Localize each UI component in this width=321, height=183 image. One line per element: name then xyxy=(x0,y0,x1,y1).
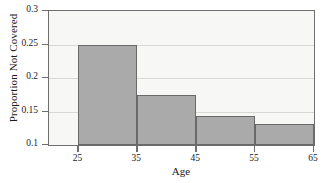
y-axis-tick-label: 0.25 xyxy=(0,39,38,49)
x-axis-tick xyxy=(195,145,196,152)
bar xyxy=(78,45,137,146)
y-axis-tick-label: 0.15 xyxy=(0,106,38,116)
y-axis-tick-label: 0.2 xyxy=(0,72,38,82)
x-axis-tick-label: 55 xyxy=(239,154,269,164)
x-axis-tick-label: 65 xyxy=(298,154,321,164)
y-axis-tick-label: 0.1 xyxy=(0,139,38,149)
x-axis-tick xyxy=(77,145,78,152)
y-axis-title: Proportion Not Covered xyxy=(7,0,19,138)
y-axis-tick xyxy=(42,77,49,78)
bar xyxy=(196,116,255,145)
x-axis-tick xyxy=(136,145,137,152)
y-axis-tick xyxy=(42,10,49,11)
x-axis-title: Age xyxy=(48,165,314,177)
x-axis-tick-label: 35 xyxy=(121,154,151,164)
y-axis-tick xyxy=(42,144,49,145)
plot-area xyxy=(48,10,315,146)
plot-inner xyxy=(49,11,314,145)
bar xyxy=(137,95,196,145)
bar xyxy=(255,124,314,145)
y-axis-tick-label: 0.3 xyxy=(0,5,38,15)
chart-container: Proportion Not Covered 0.10.150.20.250.3… xyxy=(0,0,321,183)
x-axis-tick xyxy=(254,145,255,152)
y-axis-tick xyxy=(42,111,49,112)
x-axis-tick xyxy=(313,145,314,152)
y-axis-tick xyxy=(42,44,49,45)
x-axis-tick-label: 45 xyxy=(180,154,210,164)
x-axis-tick-label: 25 xyxy=(62,154,92,164)
